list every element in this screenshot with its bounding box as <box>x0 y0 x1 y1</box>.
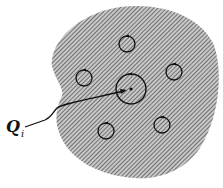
charge-region-diagram <box>0 0 223 188</box>
diagram-canvas: Qi <box>0 0 223 188</box>
charge-subscript: i <box>21 128 24 139</box>
hatched-region <box>52 6 219 178</box>
charge-label: Qi <box>6 117 23 136</box>
charge-symbol: Q <box>6 117 20 136</box>
